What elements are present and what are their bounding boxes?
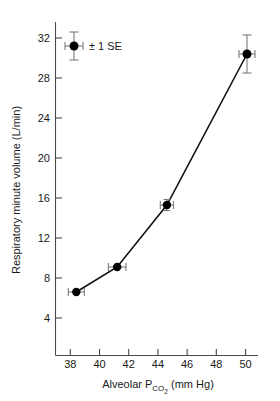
chart-canvas: 32 28 24 20 16 12 8 4 38 40 42 44 46 48 — [0, 0, 280, 401]
x-axis-title-tail: (mm Hg) — [168, 378, 214, 390]
x-axis-title: Alveolar PCO2 (mm Hg) — [102, 378, 214, 395]
axis-spines — [56, 22, 259, 356]
x-axis-title-sub: CO — [152, 384, 164, 393]
legend-marker-icon — [70, 42, 79, 51]
x-axis-title-lead: Alveolar P — [102, 378, 152, 390]
legend-label: ± 1 SE — [89, 40, 122, 52]
x-tick-label-50: 50 — [239, 358, 251, 370]
x-tick-label-40: 40 — [93, 358, 105, 370]
x-axis-ticks — [70, 349, 245, 356]
data-point-3 — [160, 200, 173, 211]
y-tick-label-28: 28 — [38, 72, 50, 84]
x-tick-label-42: 42 — [123, 358, 135, 370]
x-tick-label-44: 44 — [152, 358, 164, 370]
data-point-4 — [239, 35, 255, 73]
y-axis-title-text: Respiratory minute volume (L/min) — [10, 106, 22, 274]
y-tick-label-32: 32 — [38, 32, 50, 44]
y-tick-label-24: 24 — [38, 112, 50, 124]
y-axis-ticks — [56, 38, 63, 318]
y-tick-label-12: 12 — [38, 232, 50, 244]
y-tick-label-8: 8 — [44, 272, 50, 284]
marker-point-2 — [113, 263, 121, 271]
marker-point-4 — [243, 50, 252, 59]
y-tick-label-4: 4 — [44, 312, 50, 324]
marker-point-3 — [163, 201, 171, 209]
respiratory-response-figure: 32 28 24 20 16 12 8 4 38 40 42 44 46 48 — [0, 0, 280, 401]
series-polyline — [76, 54, 247, 292]
data-series-line — [76, 54, 247, 292]
x-tick-label-48: 48 — [210, 358, 222, 370]
svg-text:Alveolar PCO2 (mm Hg): Alveolar PCO2 (mm Hg) — [102, 378, 214, 395]
y-axis-title: Respiratory minute volume (L/min) — [10, 106, 22, 274]
y-axis-tick-labels: 32 28 24 20 16 12 8 4 — [38, 32, 50, 324]
legend: ± 1 SE — [65, 32, 122, 60]
marker-point-1 — [72, 288, 80, 296]
x-tick-label-38: 38 — [64, 358, 76, 370]
y-tick-label-16: 16 — [38, 192, 50, 204]
x-tick-label-46: 46 — [181, 358, 193, 370]
y-tick-label-20: 20 — [38, 152, 50, 164]
x-axis-tick-labels: 38 40 42 44 46 48 50 — [64, 358, 251, 370]
